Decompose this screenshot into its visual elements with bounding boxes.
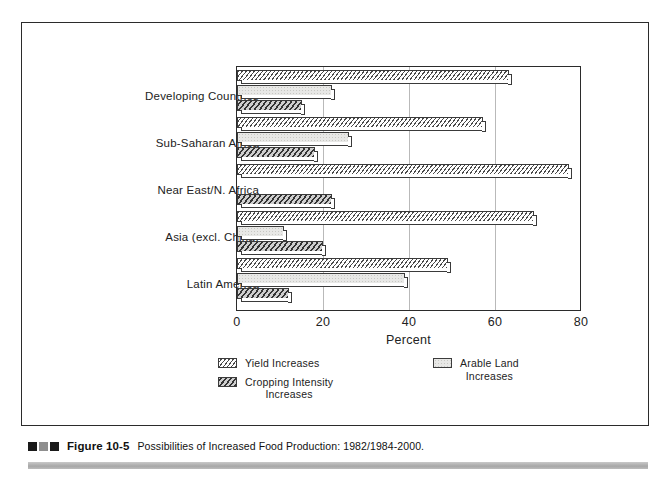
- bar-yield-asia-excl-china: [237, 211, 534, 222]
- legend-item-arable-land-increases: Arable Land Increases: [433, 357, 618, 382]
- legend-label-cropping-line1: Cropping Intensity: [245, 376, 333, 388]
- category-label-developing-countries: Developing Countries: [49, 90, 259, 102]
- caption-text: Possibilities of Increased Food Producti…: [137, 440, 424, 452]
- bar-cropping-latin-america: [237, 288, 289, 299]
- bar-group-near-east-n-africa: [237, 164, 582, 211]
- x-axis-title: Percent: [236, 333, 581, 347]
- bar-yield-latin-america: [237, 258, 448, 269]
- legend-swatch-cropping-intensity-increases: [218, 377, 237, 387]
- legend-label-arable-line1: Arable Land: [460, 357, 519, 369]
- caption-figure-number: Figure 10-5: [67, 440, 129, 452]
- bars-layer: [237, 66, 582, 311]
- bar-cropping-near-east-n-africa: [237, 194, 332, 205]
- xtick-label-20: 20: [316, 315, 331, 329]
- legend-label-cropping-intensity-increases: Cropping Intensity Increases: [245, 376, 333, 401]
- legend-item-cropping-intensity-increases: Cropping Intensity Increases: [218, 376, 433, 401]
- category-label-near-east-n-africa: Near East/N. Africa: [49, 184, 259, 196]
- legend-label-arable-land-increases: Arable Land Increases: [460, 357, 519, 382]
- xtick-label-80: 80: [574, 315, 589, 329]
- chart-area: Developing Countries Sub-Saharan Africa …: [22, 23, 650, 427]
- bar-yield-sub-saharan-africa: [237, 117, 483, 128]
- caption-square-icon-1: [28, 442, 37, 451]
- bar-group-sub-saharan-africa: [237, 117, 582, 164]
- caption-square-icon-3: [50, 442, 59, 451]
- figure-caption: Figure 10-5 Possibilities of Increased F…: [28, 440, 648, 452]
- bar-arable-asia-excl-china: [237, 226, 284, 237]
- bar-group-developing-countries: [237, 70, 582, 117]
- legend-column-left: Yield Increases Cropping Intensity Incre…: [218, 357, 433, 407]
- bar-cropping-sub-saharan-africa: [237, 147, 315, 158]
- caption-square-icon-2: [39, 442, 48, 451]
- bar-yield-developing-countries: [237, 70, 509, 81]
- category-label-asia-excl-china: Asia (excl. China): [49, 231, 259, 243]
- bar-arable-developing-countries: [237, 85, 332, 96]
- bar-group-latin-america: [237, 258, 582, 305]
- xtick-label-40: 40: [402, 315, 417, 329]
- category-label-latin-america: Latin America: [49, 278, 259, 290]
- bar-yield-near-east-n-africa: [237, 164, 569, 175]
- bar-arable-sub-saharan-africa: [237, 132, 349, 143]
- legend-column-right: Arable Land Increases: [433, 357, 618, 388]
- xtick-label-60: 60: [488, 315, 503, 329]
- figure-frame: Developing Countries Sub-Saharan Africa …: [21, 22, 649, 426]
- bar-cropping-developing-countries: [237, 100, 302, 111]
- legend-item-yield-increases: Yield Increases: [218, 357, 433, 370]
- legend-label-yield-increases: Yield Increases: [245, 357, 319, 370]
- bar-arable-latin-america: [237, 273, 405, 284]
- bottom-rule-divider: [28, 462, 648, 469]
- bar-group-asia-excl-china: [237, 211, 582, 258]
- legend-swatch-arable-land-increases: [433, 358, 452, 368]
- category-label-sub-saharan-africa: Sub-Saharan Africa: [49, 137, 259, 149]
- legend-label-arable-line2: Increases: [460, 370, 519, 383]
- bar-cropping-asia-excl-china: [237, 241, 323, 252]
- xtick-label-0: 0: [233, 315, 240, 329]
- legend-swatch-yield-increases: [218, 358, 237, 368]
- legend-label-cropping-line2: Increases: [245, 388, 333, 401]
